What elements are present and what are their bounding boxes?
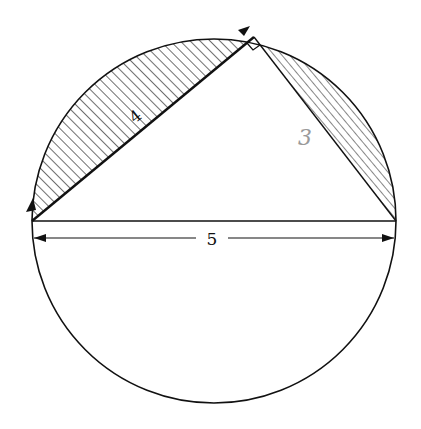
dimension-arrow-right-icon bbox=[382, 234, 394, 242]
diagram-canvas: 5 4 3 bbox=[0, 0, 421, 429]
leg-short bbox=[254, 37, 396, 221]
dimension-arrow-left-icon bbox=[34, 234, 46, 242]
geometry-figure: 5 4 3 bbox=[0, 0, 421, 429]
label-diameter: 5 bbox=[207, 229, 218, 249]
label-leg-short: 3 bbox=[298, 125, 312, 150]
arc-arrow-top-icon bbox=[238, 26, 250, 36]
